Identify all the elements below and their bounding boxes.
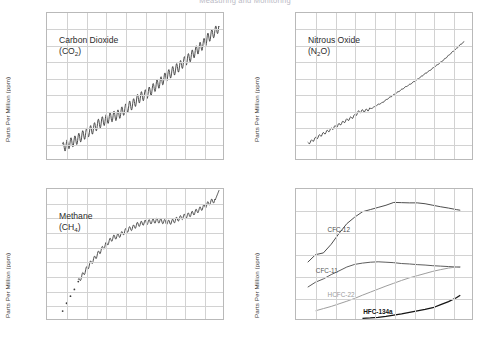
y-tick-mark: [46, 247, 47, 248]
gridline-vertical: [205, 189, 206, 319]
x-tick-mark: [454, 319, 455, 320]
gridline-vertical: [415, 13, 416, 159]
gridline-horizontal: [47, 128, 223, 129]
x-tick-mark: [335, 319, 336, 320]
gridline-vertical: [395, 13, 396, 159]
annotation-co2: Carbon Dioxide (CO2): [59, 35, 118, 57]
gridline-horizontal: [47, 145, 223, 146]
y-tick-mark: [295, 95, 296, 96]
x-tick-mark: [315, 319, 316, 320]
y-tick-mark: [295, 13, 296, 14]
x-tick-mark: [126, 319, 127, 320]
gridline-horizontal: [47, 233, 223, 234]
x-tick-mark: [165, 159, 166, 160]
y-tick-mark: [46, 144, 47, 145]
y-tick-mark: [295, 277, 296, 278]
annotation-co2-name: Carbon Dioxide: [59, 35, 118, 45]
gridline-vertical: [166, 189, 167, 319]
y-axis-label-halocarbons: Parts Per Million (ppm): [253, 210, 260, 318]
gridline-horizontal: [296, 128, 472, 129]
x-tick-mark: [205, 319, 206, 320]
x-tick-mark: [315, 159, 316, 160]
x-tick-mark: [106, 159, 107, 160]
y-tick-mark: [46, 95, 47, 96]
gridline-vertical: [375, 13, 376, 159]
x-tick-mark: [66, 159, 67, 160]
x-tick-mark: [434, 319, 435, 320]
gridline-horizontal: [47, 95, 223, 96]
gridline-horizontal: [296, 255, 472, 256]
y-axis-label-co2: Parts Per Million (ppm): [4, 34, 11, 142]
annotation-ch4: Methane (CH4): [59, 211, 92, 233]
y-tick-mark: [46, 62, 47, 63]
x-tick-mark: [47, 319, 48, 320]
y-axis-label-ch4: Parts Per Million (ppm): [4, 210, 11, 318]
gridline-vertical: [146, 189, 147, 319]
x-tick-mark: [86, 319, 87, 320]
y-tick-mark: [46, 111, 47, 112]
gridline-vertical: [205, 13, 206, 159]
y-tick-mark: [46, 203, 47, 204]
gridline-horizontal: [47, 262, 223, 263]
y-tick-mark: [46, 262, 47, 263]
series-label-hfc-134a: HFC-134a: [363, 308, 392, 315]
y-tick-mark: [295, 29, 296, 30]
x-tick-mark: [394, 319, 395, 320]
gridline-horizontal: [47, 292, 223, 293]
plot-area-co2: Carbon Dioxide (CO2) 1975198019851990199…: [46, 12, 224, 160]
ch4-data-point: [73, 289, 75, 291]
y-tick-mark: [46, 291, 47, 292]
gridline-horizontal: [296, 233, 472, 234]
x-tick-mark: [145, 159, 146, 160]
gridline-horizontal: [47, 204, 223, 205]
plot-area-ch4: Methane (CH4) 19751980198519901995200020…: [46, 188, 224, 320]
y-tick-mark: [295, 62, 296, 63]
gridline-horizontal: [296, 79, 472, 80]
x-tick-mark: [47, 159, 48, 160]
y-tick-mark: [295, 111, 296, 112]
y-tick-mark: [295, 144, 296, 145]
y-tick-mark: [46, 29, 47, 30]
panel-carbon-dioxide: Parts Per Million (ppm) Carbon Dioxide (…: [0, 0, 245, 180]
gridline-horizontal: [296, 95, 472, 96]
x-tick-mark: [355, 159, 356, 160]
x-tick-mark: [126, 159, 127, 160]
series-label-hcfc-22: HCFC-22: [328, 291, 355, 298]
y-tick-mark: [46, 128, 47, 129]
x-tick-mark: [375, 159, 376, 160]
x-tick-mark: [375, 319, 376, 320]
ch4-data-point: [70, 295, 72, 297]
x-tick-mark: [355, 319, 356, 320]
y-tick-mark: [295, 299, 296, 300]
annotation-n2o-name: Nitrous Oxide: [308, 35, 360, 45]
y-tick-mark: [295, 233, 296, 234]
x-tick-mark: [394, 159, 395, 160]
gridline-horizontal: [296, 277, 472, 278]
x-tick-mark: [66, 319, 67, 320]
gridline-vertical: [185, 189, 186, 319]
x-tick-mark: [165, 319, 166, 320]
y-tick-mark: [46, 189, 47, 190]
x-tick-mark: [145, 319, 146, 320]
gridline-horizontal: [296, 145, 472, 146]
x-tick-mark: [205, 159, 206, 160]
y-tick-mark: [46, 277, 47, 278]
gridline-horizontal: [47, 112, 223, 113]
gridline-horizontal: [47, 306, 223, 307]
annotation-co2-formula: (CO2): [59, 46, 81, 56]
x-tick-mark: [454, 159, 455, 160]
annotation-n2o-formula: (N2O): [308, 46, 330, 56]
annotation-n2o: Nitrous Oxide (N2O): [308, 35, 360, 57]
y-tick-mark: [46, 218, 47, 219]
gridline-vertical: [67, 189, 68, 319]
gridline-vertical: [126, 13, 127, 159]
panel-methane: Parts Per Million (ppm) Methane (CH4) 19…: [0, 180, 245, 346]
x-tick-mark: [185, 159, 186, 160]
gridline-horizontal: [47, 62, 223, 63]
x-tick-mark: [414, 159, 415, 160]
y-tick-mark: [295, 211, 296, 212]
y-tick-mark: [295, 78, 296, 79]
gridline-horizontal: [47, 29, 223, 30]
panel-nitrous-oxide: Parts Per Million (ppm) Nitrous Oxide (N…: [245, 0, 490, 180]
x-tick-mark: [335, 159, 336, 160]
